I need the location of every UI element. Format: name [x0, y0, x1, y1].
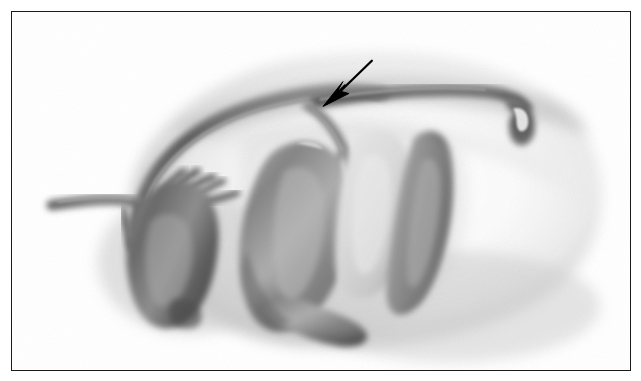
figure-frame-border [11, 11, 631, 371]
figure-root: Grayscale anatomical airbrush illustrati… [0, 0, 641, 381]
anatomical-illustration [12, 12, 630, 370]
paper-grain-overlay [12, 12, 630, 370]
